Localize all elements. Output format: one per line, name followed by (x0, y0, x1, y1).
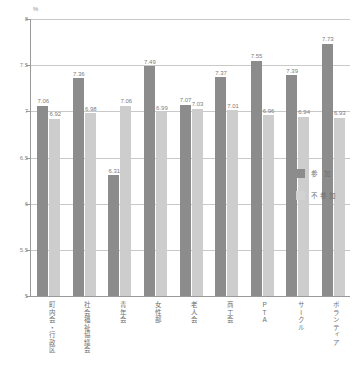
bar[interactable] (215, 77, 226, 296)
y-axis-tick-label: 6 (8, 201, 28, 207)
bar-chart: % 87.576.565.55 7.066.927.366.986.317.06… (0, 0, 355, 377)
bar-value-label: 7.06 (32, 98, 54, 104)
bar-value-label: 7.36 (68, 71, 90, 77)
bar-value-label: 7.73 (317, 36, 339, 42)
legend-item-label: 参 加 (311, 168, 333, 178)
bar-value-label: 6.99 (151, 105, 173, 111)
bar-group: 7.066.92 (37, 19, 60, 296)
y-axis-unit-label: % (33, 6, 38, 12)
x-axis-category-label: 女性部 (149, 301, 161, 324)
bar-group: 7.736.93 (322, 19, 345, 296)
legend-item-label: 不参加 (311, 190, 338, 200)
bar[interactable] (192, 109, 203, 296)
legend: 参 加 不参加 (296, 168, 338, 212)
bar-group: 7.556.96 (251, 19, 274, 296)
x-axis-category-label: 青年会 (114, 301, 126, 324)
x-axis-category-label: ボランティア (327, 301, 339, 346)
legend-swatch-icon (296, 169, 305, 178)
bar-value-label: 7.03 (187, 101, 209, 107)
bar-value-label: 6.98 (80, 106, 102, 112)
y-axis-tick-label: 5 (8, 293, 28, 299)
bar-group: 7.496.99 (144, 19, 167, 296)
bar[interactable] (49, 119, 60, 296)
bar[interactable] (85, 113, 96, 296)
x-axis-category-label: 老人会 (185, 301, 197, 324)
legend-item[interactable]: 不参加 (296, 190, 338, 200)
y-axis-tick-label: 8 (8, 16, 28, 22)
bar-value-label: 6.96 (258, 108, 280, 114)
bar-value-label: 7.55 (246, 53, 268, 59)
x-axis-category-label: サークル (292, 301, 304, 331)
bar-group: 7.077.03 (180, 19, 203, 296)
x-axis-category-label: PTA (256, 301, 268, 324)
y-axis-tick-label: 5.5 (8, 247, 28, 253)
bar-value-label: 7.39 (281, 68, 303, 74)
bar-group: 7.377.01 (215, 19, 238, 296)
y-axis-tick-label: 6.5 (8, 155, 28, 161)
y-axis-tick-label: 7.5 (8, 62, 28, 68)
bar[interactable] (120, 106, 131, 296)
bar[interactable] (156, 112, 167, 296)
bar-group: 6.317.06 (108, 19, 131, 296)
bar-value-label: 7.49 (139, 59, 161, 65)
legend-swatch-icon (296, 191, 305, 200)
bar-value-label: 6.93 (329, 110, 351, 116)
bar[interactable] (108, 175, 119, 296)
bar-group: 7.366.98 (73, 19, 96, 296)
bar[interactable] (144, 66, 155, 296)
bar-value-label: 6.94 (293, 109, 315, 115)
legend-item[interactable]: 参 加 (296, 168, 338, 178)
bar-group: 7.396.94 (286, 19, 309, 296)
bar[interactable] (37, 106, 48, 296)
bar[interactable] (263, 115, 274, 296)
bar-value-label: 7.37 (210, 70, 232, 76)
x-axis-category-label: 社会福祉協議会 (78, 301, 90, 354)
bar[interactable] (227, 110, 238, 296)
bar[interactable] (251, 61, 262, 296)
x-axis-category-label: 町内会・行政区 (43, 301, 55, 354)
x-axis-category-label: 商工会 (221, 301, 233, 324)
bar[interactable] (180, 105, 191, 296)
y-axis-tick-label: 7 (8, 108, 28, 114)
bar-value-label: 7.06 (115, 98, 137, 104)
bar-value-label: 6.92 (44, 111, 66, 117)
plot-area: 7.066.927.366.986.317.067.496.997.077.03… (30, 19, 350, 296)
x-axis-line (30, 296, 350, 297)
bar-value-label: 7.01 (222, 103, 244, 109)
